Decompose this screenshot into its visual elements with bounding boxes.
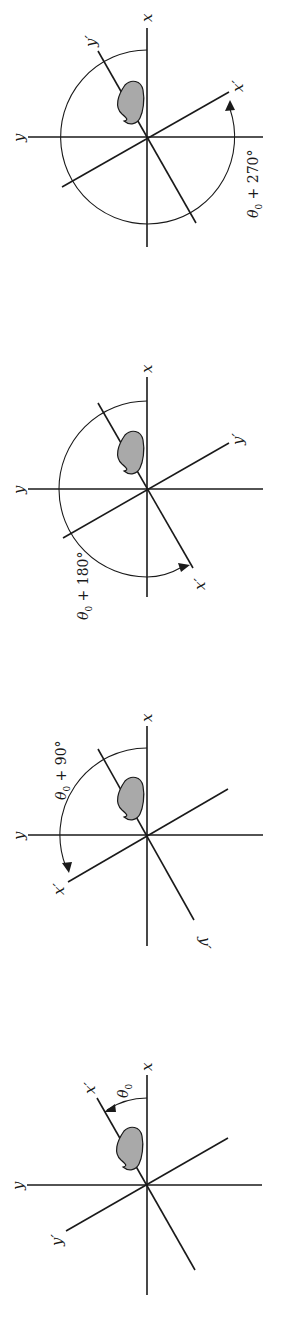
label-y-prime: y′ bbox=[229, 433, 247, 446]
panel-theta0-plus-180: x y y′ x′ θ0 + 180° bbox=[10, 364, 263, 620]
label-x-prime: x′ bbox=[191, 578, 209, 590]
label-y: y bbox=[10, 485, 28, 495]
label-x: x bbox=[138, 13, 156, 22]
angle-label: θ0 bbox=[115, 1084, 134, 1098]
label-y: y bbox=[10, 831, 28, 841]
arrowhead-icon bbox=[104, 1104, 116, 1112]
label-x-prime: x′ bbox=[81, 1082, 99, 1094]
label-x: x bbox=[138, 713, 156, 722]
object-shape bbox=[117, 1127, 143, 1170]
panel-theta0-plus-270: x y y′ x′ θ0 + 270° bbox=[10, 13, 264, 247]
panel-theta0: x y x′ y′ θ0 bbox=[9, 1062, 262, 1295]
label-y-prime: y′ bbox=[196, 936, 214, 949]
label-x-prime: x′ bbox=[229, 80, 247, 92]
angle-label: θ0 + 180° bbox=[75, 551, 94, 620]
x-prime-axis bbox=[97, 1098, 195, 1270]
y-prime-axis bbox=[63, 443, 229, 538]
label-y: y bbox=[10, 133, 28, 143]
label-y-prime: y′ bbox=[48, 1234, 66, 1247]
label-x-prime: x′ bbox=[50, 883, 68, 895]
object-shape bbox=[118, 777, 144, 820]
object-shape bbox=[118, 431, 144, 474]
label-x: x bbox=[138, 364, 156, 373]
panel-theta0-plus-90: x y x′ y′ θ0 + 90° bbox=[10, 713, 263, 949]
label-y: y bbox=[9, 1181, 27, 1191]
angle-label: θ0 + 90° bbox=[53, 740, 72, 800]
label-y-prime: y′ bbox=[82, 35, 100, 48]
x-prime-axis bbox=[62, 92, 229, 187]
angle-label: θ0 + 270° bbox=[245, 149, 264, 218]
arrowhead-icon bbox=[178, 563, 190, 572]
object-shape bbox=[118, 81, 144, 124]
label-x: x bbox=[138, 1062, 156, 1071]
arrowhead-icon bbox=[62, 862, 72, 873]
axis-rotation-figure: x y y′ x′ θ0 + 270° x y y′ x′ θ0 + 180° bbox=[0, 0, 286, 1332]
x-prime-axis bbox=[98, 403, 193, 568]
arrowhead-icon bbox=[225, 100, 235, 111]
